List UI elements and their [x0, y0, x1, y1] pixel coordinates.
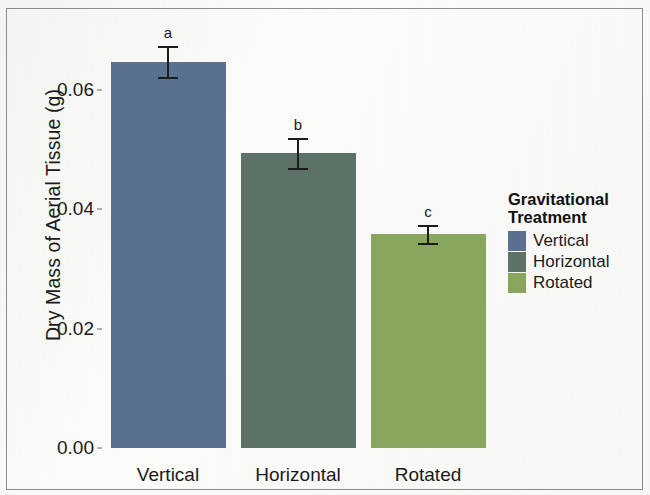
error-bar-line [427, 225, 429, 243]
error-bar-cap-upper [288, 138, 308, 140]
y-axis-tick-label: 0.02 [57, 318, 94, 340]
legend-label: Vertical [533, 231, 589, 251]
y-axis-tick-label: 0.04 [57, 198, 94, 220]
legend-item: Rotated [508, 273, 640, 294]
bar [371, 234, 486, 448]
legend-label: Horizontal [533, 252, 610, 272]
bar [111, 62, 226, 448]
y-axis-tick-mark [97, 89, 102, 90]
error-bar-cap-lower [158, 77, 178, 79]
legend-title: Gravitational Treatment [508, 190, 640, 227]
legend-label: Rotated [533, 273, 593, 293]
error-bar-line [297, 138, 299, 168]
significance-label: b [294, 116, 302, 133]
error-bar-cap-lower [418, 243, 438, 245]
bar [241, 153, 356, 448]
y-axis-tick-mark [97, 448, 102, 449]
legend-swatch [508, 231, 526, 251]
y-axis-tick-label: 0.06 [57, 79, 94, 101]
error-bar-cap-upper [418, 225, 438, 227]
significance-label: a [164, 24, 172, 41]
y-axis-tick-mark [97, 209, 102, 210]
figure-page: Dry Mass of Aerial Tissue (g) 0.000.020.… [0, 0, 650, 495]
error-bar-cap-lower [288, 168, 308, 170]
y-axis-tick-mark [97, 328, 102, 329]
legend-swatch [508, 273, 526, 293]
legend-entries: VerticalHorizontalRotated [508, 231, 640, 294]
legend-swatch [508, 252, 526, 272]
legend-item: Horizontal [508, 252, 640, 273]
y-axis-tick-label: 0.00 [57, 437, 94, 459]
x-axis-tick-label: Rotated [395, 464, 462, 486]
plot-area: abc [103, 18, 493, 448]
error-bar-cap-upper [158, 46, 178, 48]
x-axis-tick-label: Vertical [137, 464, 199, 486]
legend: Gravitational Treatment VerticalHorizont… [508, 190, 640, 294]
x-axis-tick-label: Horizontal [255, 464, 341, 486]
legend-item: Vertical [508, 231, 640, 252]
error-bar-line [167, 46, 169, 77]
significance-label: c [424, 203, 432, 220]
